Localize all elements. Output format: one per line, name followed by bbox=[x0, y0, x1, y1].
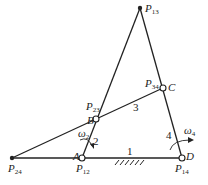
link-3-label: 3 bbox=[133, 101, 139, 113]
label-p34: P34 bbox=[144, 77, 159, 91]
link-2-label: 2 bbox=[93, 135, 99, 147]
joint-b-icon bbox=[93, 116, 99, 122]
joint-a-icon bbox=[79, 155, 85, 161]
omega4-label: ω4 bbox=[184, 124, 196, 138]
label-p14: P14 bbox=[174, 162, 189, 176]
label-p13: P13 bbox=[144, 2, 159, 16]
label-b: B bbox=[87, 114, 94, 126]
link-1-label: 1 bbox=[127, 145, 133, 157]
label-p23: P23 bbox=[85, 100, 100, 114]
line-a-to-p13 bbox=[82, 8, 140, 158]
joint-c-icon bbox=[160, 85, 166, 91]
omega2-label: ω2 bbox=[78, 127, 90, 141]
ground-hatch-icon bbox=[115, 160, 144, 165]
link-4-label: 4 bbox=[166, 129, 172, 141]
label-d: D bbox=[185, 150, 194, 162]
linkage-diagram: P13 P34 C P23 B A P12 D P14 P24 1 2 3 4 … bbox=[0, 0, 208, 185]
label-a: A bbox=[72, 150, 80, 162]
joint-d-icon bbox=[179, 155, 185, 161]
label-p24: P24 bbox=[7, 162, 22, 176]
p13-dot-icon bbox=[138, 6, 142, 10]
p24-dot-icon bbox=[10, 156, 14, 160]
label-p12: P12 bbox=[75, 162, 90, 176]
linkage-svg: P13 P34 C P23 B A P12 D P14 P24 1 2 3 4 … bbox=[0, 0, 208, 185]
label-c: C bbox=[168, 81, 176, 93]
